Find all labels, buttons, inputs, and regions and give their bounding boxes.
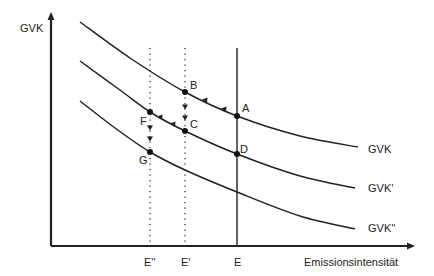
arrow-down-icon [147,126,153,131]
point-label-g: G [139,154,148,166]
point-label-c: C [190,118,198,130]
point-label-a: A [242,102,249,114]
tick-label-e-double-prime: E'' [144,256,156,268]
curve-gvk [80,22,358,147]
curve-gvk-double-prime [80,101,355,229]
curve-label-gvk-double-prime: GVK'' [368,222,395,234]
diagram-canvas [0,0,434,276]
gvk-emission-diagram: GVK Emissionsintensität GVK GVK' GVK'' E… [0,0,434,276]
direction-arrows [147,98,227,142]
point-label-b: B [190,79,197,91]
tick-label-e-prime: E' [181,256,190,268]
curve-label-gvk: GVK [368,143,391,155]
tick-label-e: E [234,256,241,268]
cost-curves [80,22,358,229]
point-c-dot [182,128,188,134]
arrow-down-icon [182,116,188,121]
point-a-dot [234,113,240,119]
point-g-dot [147,149,153,155]
arrow-down-icon [182,105,188,110]
y-axis-label: GVK [20,22,43,34]
point-b-dot [182,89,188,95]
curve-label-gvk-prime: GVK' [368,182,393,194]
point-f-dot [147,109,153,115]
curve-gvk-prime [80,61,355,188]
point-label-d: D [240,143,248,155]
x-axis-label: Emissionsintensität [304,256,398,268]
arrow-down-icon [147,137,153,142]
y-axis-arrow-icon [48,12,55,20]
point-label-f: F [140,115,147,127]
x-axis-arrow-icon [407,243,415,250]
